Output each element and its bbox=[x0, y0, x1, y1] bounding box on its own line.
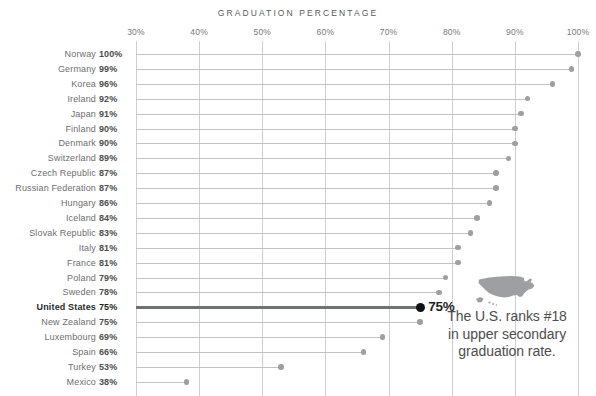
chart-row-label: Russian Federation bbox=[15, 181, 96, 196]
chart-row-value: 100% bbox=[99, 47, 125, 62]
chart-row-value: 53% bbox=[99, 360, 125, 375]
chart-row: Turkey53% bbox=[0, 360, 596, 375]
chart-row-dot bbox=[569, 66, 575, 72]
chart-row-line bbox=[136, 54, 578, 55]
x-axis-tick-label: 70% bbox=[380, 27, 398, 37]
chart-row-line bbox=[136, 292, 439, 293]
chart-row-line bbox=[136, 278, 445, 279]
chart-row-value: 89% bbox=[99, 151, 125, 166]
chart-row-line bbox=[136, 248, 458, 249]
chart-row-value: 90% bbox=[99, 136, 125, 151]
chart-row-line bbox=[136, 99, 527, 100]
x-axis-tick-label: 90% bbox=[506, 27, 524, 37]
chart-row-label: United States bbox=[37, 300, 96, 315]
chart-row-value: 79% bbox=[99, 271, 125, 286]
chart-row: Denmark90% bbox=[0, 136, 596, 151]
chart-row-dot bbox=[455, 260, 461, 266]
chart-row-line bbox=[136, 382, 187, 383]
chart-row-label: Slovak Republic bbox=[29, 226, 96, 241]
chart-row: Switzerland89% bbox=[0, 151, 596, 166]
chart-row-line bbox=[136, 322, 420, 323]
chart-row-value: 99% bbox=[99, 62, 125, 77]
chart-row-line bbox=[136, 69, 572, 70]
chart-row-value: 96% bbox=[99, 77, 125, 92]
x-axis-tick-label: 60% bbox=[317, 27, 335, 37]
chart-row-dot bbox=[380, 334, 386, 340]
x-axis-tick-label: 80% bbox=[443, 27, 461, 37]
chart-row-dot bbox=[468, 230, 474, 236]
chart-row-dot bbox=[506, 156, 512, 162]
chart-row-dot bbox=[512, 126, 518, 132]
chart-row: Czech Republic87% bbox=[0, 166, 596, 181]
chart-row: Finland90% bbox=[0, 122, 596, 137]
chart-row-label: Finland bbox=[65, 122, 96, 137]
chart-annotation: The U.S. ranks #18in upper secondarygrad… bbox=[418, 308, 596, 361]
chart-row-dot bbox=[474, 215, 480, 221]
chart-row-label: France bbox=[67, 256, 96, 271]
chart-row-line bbox=[136, 114, 521, 115]
chart-row-dot bbox=[493, 185, 499, 191]
chart-row-label: Mexico bbox=[67, 375, 96, 390]
chart-row-line bbox=[136, 173, 496, 174]
chart-row-dot bbox=[518, 111, 524, 117]
chart-row-dot bbox=[416, 303, 425, 312]
chart-row-dot bbox=[512, 141, 518, 147]
chart-row-line bbox=[136, 233, 471, 234]
chart-row-label: Iceland bbox=[66, 211, 96, 226]
chart-row-dot bbox=[436, 290, 442, 296]
chart-row-line bbox=[136, 218, 477, 219]
chart-row: Korea96% bbox=[0, 77, 596, 92]
chart-row-dot bbox=[278, 364, 284, 370]
x-axis-tick-label: 30% bbox=[127, 27, 145, 37]
chart-row: Germany99% bbox=[0, 62, 596, 77]
chart-row-value: 87% bbox=[99, 181, 125, 196]
chart-row: Slovak Republic83% bbox=[0, 226, 596, 241]
chart-row-label: New Zealand bbox=[41, 315, 96, 330]
chart-row-dot bbox=[184, 379, 190, 385]
x-axis-tick-label: 100% bbox=[567, 27, 590, 37]
united-states-map-silhouette-icon bbox=[474, 273, 536, 307]
chart-row: Iceland84% bbox=[0, 211, 596, 226]
chart-row-line bbox=[136, 337, 382, 338]
chart-row-value: 66% bbox=[99, 345, 125, 360]
chart-row-value: 78% bbox=[99, 285, 125, 300]
chart-row-value: 86% bbox=[99, 196, 125, 211]
chart-row-label: Czech Republic bbox=[31, 166, 96, 181]
chart-row-line bbox=[136, 306, 420, 309]
chart-row-label: Switzerland bbox=[48, 151, 96, 166]
chart-row-label: Japan bbox=[71, 107, 96, 122]
chart-row-value: 81% bbox=[99, 256, 125, 271]
chart-row-line bbox=[136, 158, 509, 159]
chart-row-line bbox=[136, 263, 458, 264]
chart-row-line bbox=[136, 143, 515, 144]
chart-row-value: 91% bbox=[99, 107, 125, 122]
chart-row-value: 90% bbox=[99, 122, 125, 137]
chart-row-label: Italy bbox=[79, 241, 96, 256]
chart-row: Russian Federation87% bbox=[0, 181, 596, 196]
chart-row: Italy81% bbox=[0, 241, 596, 256]
chart-row-label: Luxembourg bbox=[44, 330, 96, 345]
chart-row-line bbox=[136, 352, 363, 353]
chart-row: Japan91% bbox=[0, 107, 596, 122]
chart-row-line bbox=[136, 367, 281, 368]
chart-row: Mexico38% bbox=[0, 375, 596, 390]
chart-row-dot bbox=[550, 81, 556, 87]
chart-row-value: 81% bbox=[99, 241, 125, 256]
x-axis-tick-label: 50% bbox=[253, 27, 271, 37]
chart-row: Ireland92% bbox=[0, 92, 596, 107]
chart-row-label: Ireland bbox=[67, 92, 96, 107]
chart-row-label: Germany bbox=[58, 62, 96, 77]
chart-row-dot bbox=[443, 275, 449, 281]
chart-row: France81% bbox=[0, 256, 596, 271]
chart-row-value: 92% bbox=[99, 92, 125, 107]
chart-row-dot bbox=[525, 96, 531, 102]
chart-row-line bbox=[136, 84, 553, 85]
chart-row-value: 75% bbox=[99, 315, 125, 330]
chart-row-label: Korea bbox=[71, 77, 96, 92]
chart-row-value: 83% bbox=[99, 226, 125, 241]
chart-row: Norway100% bbox=[0, 47, 596, 62]
chart-row: Hungary86% bbox=[0, 196, 596, 211]
chart-row-value: 84% bbox=[99, 211, 125, 226]
chart-row-dot bbox=[487, 200, 493, 206]
chart-row-label: Spain bbox=[72, 345, 96, 360]
